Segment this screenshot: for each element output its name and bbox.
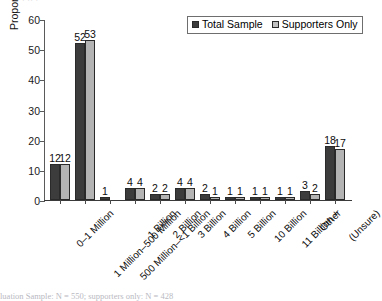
y-tick-10 [40, 171, 44, 172]
bar-group: 11 [250, 19, 271, 200]
bar[interactable] [335, 149, 345, 200]
top-clipped-text: · ·· · [22, 0, 322, 5]
bar[interactable] [160, 194, 170, 200]
legend-item-total-sample: Total Sample [192, 19, 263, 30]
bar-group: 5253 [75, 19, 96, 200]
bar[interactable] [210, 197, 220, 200]
bar[interactable] [100, 197, 110, 200]
bar[interactable] [50, 164, 60, 200]
bar-value-label: 4 [133, 177, 147, 187]
bar[interactable] [225, 197, 235, 200]
bar-group: 44 [125, 19, 146, 200]
bar[interactable] [85, 40, 95, 200]
bar[interactable] [250, 197, 260, 200]
bar[interactable] [175, 188, 185, 200]
bar[interactable] [285, 197, 295, 200]
bar[interactable] [275, 197, 285, 200]
bar-group: 11 [275, 19, 296, 200]
bar-value-label: 2 [158, 183, 172, 193]
bar-value-label: 1 [208, 186, 222, 196]
chart-legend: Total Sample Supporters Only [187, 16, 363, 34]
bar-group: 44 [175, 19, 196, 200]
y-tick-0 [40, 201, 44, 202]
y-tick-60 [40, 20, 44, 21]
x-tick [135, 200, 136, 204]
bar-value-label: 12 [58, 153, 72, 163]
y-tick-label-60: 60 [18, 15, 40, 25]
legend-swatch-icon-supporters-only [272, 21, 279, 28]
legend-item-supporters-only: Supporters Only [272, 19, 358, 30]
x-tick [285, 200, 286, 204]
bar[interactable] [75, 43, 85, 200]
bar-group: 22 [150, 19, 171, 200]
bar-value-label: 53 [83, 29, 97, 39]
bar[interactable] [260, 197, 270, 200]
x-axis-label: Other [317, 208, 342, 233]
bar-value-label: 1 [283, 186, 297, 196]
bar-group: 1817 [325, 19, 346, 200]
y-tick-label-30: 30 [18, 106, 40, 116]
bar-group: 21 [200, 19, 221, 200]
y-tick-label-50: 50 [18, 45, 40, 55]
x-tick [85, 200, 86, 204]
bar[interactable] [125, 188, 135, 200]
bar[interactable] [185, 188, 195, 200]
bar[interactable] [135, 188, 145, 200]
x-tick [60, 200, 61, 204]
bar-group: 1212 [50, 19, 71, 200]
bar-group: 11 [225, 19, 246, 200]
bar[interactable] [235, 197, 245, 200]
x-axis-line [44, 200, 352, 201]
y-tick-label-10: 10 [18, 166, 40, 176]
y-tick-50 [40, 50, 44, 51]
legend-label-total-sample: Total Sample [202, 19, 263, 30]
bar[interactable] [150, 194, 160, 200]
x-tick [235, 200, 236, 204]
y-tick-label-0: 0 [18, 196, 40, 206]
x-tick [260, 200, 261, 204]
bar-group-container: 12125253144224421111111321817 [45, 19, 352, 200]
y-tick-30 [40, 111, 44, 112]
x-tick [160, 200, 161, 204]
x-tick [310, 200, 311, 204]
bar-group: 32 [300, 19, 321, 200]
bar-value-label: 1 [98, 186, 112, 196]
x-tick [110, 200, 111, 204]
bar[interactable] [60, 164, 70, 200]
bar-group: 1 [100, 19, 121, 200]
bar-value-label: 1 [258, 186, 272, 196]
bar[interactable] [325, 146, 335, 200]
x-tick [185, 200, 186, 204]
bar-value-label: 1 [233, 186, 247, 196]
x-axis-label: 0–1 Million [74, 208, 116, 250]
y-tick-20 [40, 141, 44, 142]
legend-label-supporters-only: Supporters Only [282, 19, 358, 30]
x-axis-label: (Unsure) [347, 208, 382, 243]
x-tick [335, 200, 336, 204]
bar-value-label: 4 [183, 177, 197, 187]
plot-area: 0102030405060 12125253144224421111111321… [44, 20, 352, 201]
y-tick-40 [40, 80, 44, 81]
y-tick-label-20: 20 [18, 136, 40, 146]
bar[interactable] [310, 194, 320, 200]
legend-swatch-icon-total-sample [192, 21, 199, 28]
bar-value-label: 2 [308, 183, 322, 193]
y-tick-label-40: 40 [18, 75, 40, 85]
figure-footnote: luation Sample: N = 550; supporters only… [0, 291, 358, 301]
x-tick [210, 200, 211, 204]
bar-value-label: 17 [333, 138, 347, 148]
